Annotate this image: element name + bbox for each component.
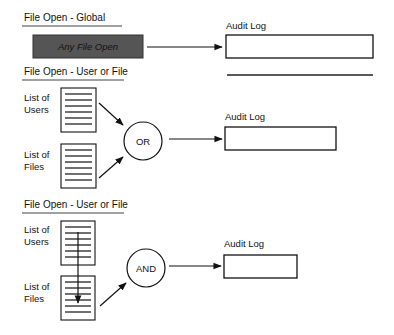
or-operator-label: OR [136, 136, 150, 147]
document-list-icon [61, 144, 96, 188]
section-user-or-file: File Open - User or File List of Users L… [22, 66, 336, 188]
arrow-users-to-or-icon [99, 103, 123, 125]
list-users-label-1: List of [24, 92, 50, 103]
section-title-or: File Open - User or File [24, 66, 128, 77]
list-users-label-2: Users [24, 104, 49, 115]
list-users-label-1: List of [24, 224, 50, 235]
list-files-label-2: Files [24, 293, 44, 304]
section-title-global: File Open - Global [24, 12, 105, 23]
and-operator-label: AND [136, 263, 156, 274]
list-files-label-1: List of [24, 149, 50, 160]
list-users-label-2: Users [24, 236, 49, 247]
audit-log-box [226, 35, 373, 58]
list-files-label-2: Files [24, 161, 44, 172]
arrow-files-to-or-icon [99, 157, 123, 178]
audit-policy-diagram: File Open - Global Any File Open Audit L… [0, 0, 394, 335]
audit-log-box [224, 255, 297, 278]
section-user-and-file: File Open - User or File List of Users L… [22, 199, 297, 320]
section-title-and: File Open - User or File [24, 199, 128, 210]
arrow-files-to-and-icon [100, 283, 126, 306]
audit-log-label: Audit Log [225, 111, 265, 122]
audit-log-label: Audit Log [226, 20, 266, 31]
document-list-icon [61, 88, 96, 132]
audit-log-label: Audit Log [224, 238, 264, 249]
any-file-open-label: Any File Open [57, 41, 118, 52]
audit-log-box [225, 127, 336, 150]
list-files-label-1: List of [24, 281, 50, 292]
